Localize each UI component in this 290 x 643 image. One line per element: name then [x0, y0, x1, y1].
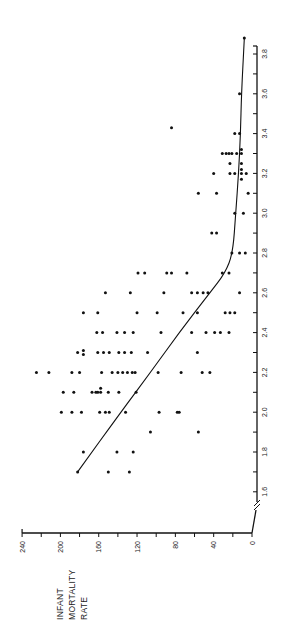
- x-tick-label: 3.6: [261, 89, 268, 99]
- data-point: [136, 271, 139, 274]
- data-point: [116, 371, 119, 374]
- data-point: [162, 291, 165, 294]
- data-point: [240, 178, 243, 181]
- data-point: [156, 311, 159, 314]
- data-point: [107, 391, 110, 394]
- data-point: [238, 132, 241, 135]
- data-point: [245, 172, 248, 175]
- data-point: [99, 387, 102, 390]
- data-point: [247, 192, 250, 195]
- data-point: [128, 470, 131, 473]
- data-point: [242, 212, 245, 215]
- fit-line: [78, 38, 245, 472]
- data-point: [210, 232, 213, 235]
- data-point: [240, 148, 243, 151]
- data-point: [233, 212, 236, 215]
- data-point: [197, 431, 200, 434]
- data-point: [182, 311, 185, 314]
- y-tick-label: 80: [172, 541, 179, 549]
- data-point: [60, 411, 63, 414]
- data-point: [135, 391, 138, 394]
- data-point: [238, 291, 241, 294]
- data-point: [111, 371, 114, 374]
- y-tick-label: 0: [249, 541, 256, 545]
- data-point: [197, 192, 200, 195]
- x-tick-label: 1.6: [261, 487, 268, 497]
- data-point: [104, 411, 107, 414]
- data-point: [123, 351, 126, 354]
- data-point: [201, 371, 204, 374]
- data-point: [157, 371, 160, 374]
- y-tick-label: 40: [210, 541, 217, 549]
- data-point: [176, 411, 179, 414]
- data-point: [240, 162, 243, 165]
- x-tick-label: 2.8: [261, 248, 268, 258]
- data-point: [108, 351, 111, 354]
- x-tick-label: 3.2: [261, 168, 268, 178]
- data-point: [240, 172, 243, 175]
- scatter-chart: 1.61.82.02.22.42.62.83.03.23.43.63.80408…: [0, 0, 290, 643]
- data-point: [221, 152, 224, 155]
- data-point: [82, 349, 85, 352]
- data-point: [240, 168, 243, 171]
- data-point: [47, 371, 50, 374]
- y-tick-label: 200: [57, 541, 64, 553]
- data-point: [82, 353, 85, 356]
- data-point: [100, 371, 103, 374]
- y-tick-label: 160: [95, 541, 102, 553]
- data-point: [165, 271, 168, 274]
- data-point: [185, 271, 188, 274]
- data-point: [126, 371, 129, 374]
- data-point: [205, 331, 208, 334]
- data-point: [149, 431, 152, 434]
- data-point: [146, 351, 149, 354]
- data-point: [224, 311, 227, 314]
- data-point: [136, 311, 139, 314]
- data-point: [190, 331, 193, 334]
- data-point: [108, 411, 111, 414]
- data-point: [98, 411, 101, 414]
- data-point: [76, 351, 79, 354]
- x-tick-label: 2.6: [261, 288, 268, 298]
- data-point: [131, 371, 134, 374]
- data-point: [196, 291, 199, 294]
- data-point: [82, 311, 85, 314]
- y-tick-label: 120: [134, 541, 141, 553]
- data-point: [102, 351, 105, 354]
- data-point: [101, 331, 104, 334]
- data-point: [96, 351, 99, 354]
- y-axis-title: INFANT: [55, 588, 65, 620]
- data-point: [117, 351, 120, 354]
- data-point: [196, 311, 199, 314]
- data-point: [225, 152, 228, 155]
- data-point: [121, 371, 124, 374]
- data-point: [132, 451, 135, 454]
- data-point: [228, 162, 231, 165]
- data-point: [240, 152, 243, 155]
- data-point: [78, 371, 81, 374]
- data-point: [212, 172, 215, 175]
- data-point: [158, 411, 161, 414]
- data-points: [35, 37, 250, 474]
- data-point: [228, 331, 231, 334]
- data-point: [233, 132, 236, 135]
- data-point: [70, 371, 73, 374]
- data-point: [206, 291, 209, 294]
- x-tick-label: 2.4: [261, 328, 268, 338]
- data-point: [80, 411, 83, 414]
- data-point: [62, 391, 65, 394]
- data-point: [159, 331, 162, 334]
- data-point: [143, 271, 146, 274]
- data-point: [228, 311, 231, 314]
- data-point: [124, 411, 127, 414]
- data-point: [129, 291, 132, 294]
- data-point: [235, 152, 238, 155]
- data-point: [96, 391, 99, 394]
- data-point: [215, 192, 218, 195]
- data-point: [213, 331, 216, 334]
- data-point: [228, 172, 231, 175]
- data-point: [228, 271, 231, 274]
- data-point: [70, 411, 73, 414]
- data-point: [117, 391, 120, 394]
- x-tick-label: 2.0: [261, 407, 268, 417]
